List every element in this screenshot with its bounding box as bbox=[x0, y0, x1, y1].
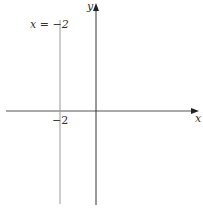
line-equation-label: x = −2 bbox=[30, 18, 69, 31]
tick-label-neg2: −2 bbox=[52, 114, 68, 127]
x-axis-label: x bbox=[195, 112, 202, 125]
coordinate-plane: x y −2 x = −2 bbox=[0, 0, 203, 208]
y-axis-label: y bbox=[86, 0, 94, 13]
y-axis-arrow-icon bbox=[93, 3, 99, 11]
